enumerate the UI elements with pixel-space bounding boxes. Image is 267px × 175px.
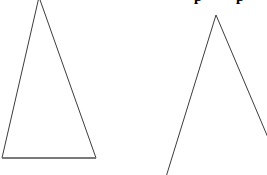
closed-triangle-shape xyxy=(2,0,96,158)
geometry-drawing xyxy=(0,0,267,175)
figure-canvas: p p xyxy=(0,0,267,175)
open-inverted-v-shape xyxy=(166,15,267,175)
